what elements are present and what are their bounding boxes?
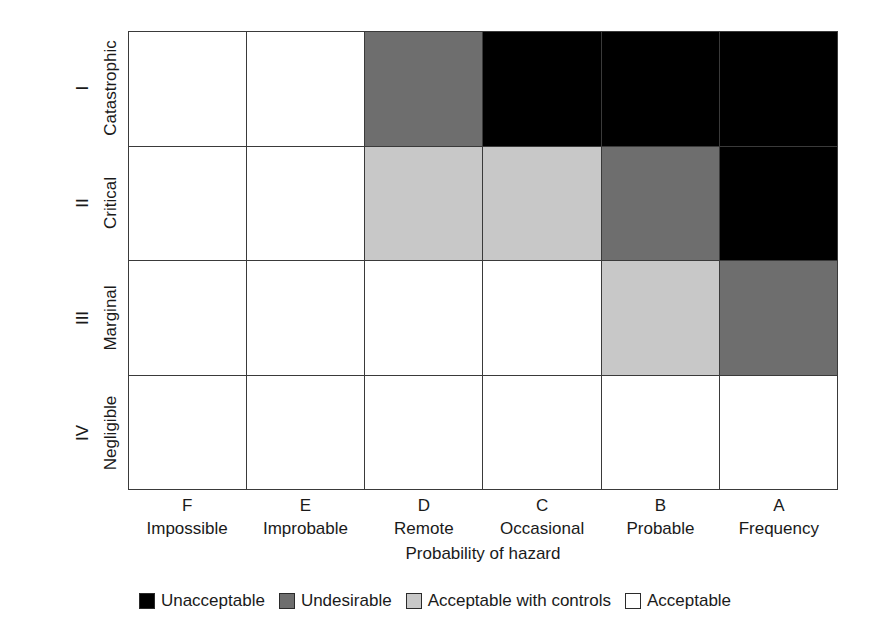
x-tick: FImpossible [128,495,246,543]
x-tick-letter: D [365,495,483,517]
matrix-cell [365,261,483,376]
y-tick-roman: I [73,31,93,146]
y-tick-roman: II [73,146,93,261]
matrix-cell [129,32,247,147]
x-tick: BProbable [601,495,719,543]
matrix-cell [720,376,838,491]
matrix-cell [365,147,483,262]
matrix-cell [247,261,365,376]
x-tick: COccasional [483,495,601,543]
matrix-cell [720,147,838,262]
y-tick-roman: III [73,260,93,375]
risk-matrix-figure: Severity of consequences ICatastrophicII… [0,0,884,630]
y-tick-label: Marginal [101,260,121,375]
legend-swatch-icon [279,593,295,609]
legend-label: Acceptable [647,591,731,611]
matrix-cell [365,376,483,491]
x-tick-label: Frequency [720,517,838,541]
x-tick-label: Impossible [128,517,246,541]
y-tick-roman: IV [73,375,93,490]
matrix-cell [720,261,838,376]
matrix-cell [247,147,365,262]
risk-matrix-grid [128,31,838,490]
legend-label: Undesirable [301,591,392,611]
matrix-cell [483,147,601,262]
y-tick-label: Critical [101,146,121,261]
x-tick: EImprobable [246,495,364,543]
x-tick-letter: E [246,495,364,517]
matrix-cell [602,32,720,147]
matrix-cell [129,376,247,491]
matrix-cell [129,147,247,262]
x-tick: DRemote [365,495,483,543]
x-axis-title: Probability of hazard [128,544,838,564]
matrix-cell [483,32,601,147]
matrix-cell [483,376,601,491]
matrix-cell [483,261,601,376]
matrix-cell [247,32,365,147]
x-tick-letter: B [601,495,719,517]
y-tick-label: Negligible [101,375,121,490]
x-tick-label: Probable [601,517,719,541]
matrix-cell [365,32,483,147]
matrix-cell [602,261,720,376]
legend-label: Acceptable with controls [428,591,611,611]
x-tick-label: Improbable [246,517,364,541]
matrix-cell [602,376,720,491]
matrix-cell [602,147,720,262]
legend-label: Unacceptable [161,591,265,611]
y-tick-label: Catastrophic [101,31,121,146]
x-tick-labels: FImpossibleEImprobableDRemoteCOccasional… [128,495,838,543]
x-tick-label: Occasional [483,517,601,541]
y-axis-title: Severity of consequences [0,0,30,91]
matrix-cell [720,32,838,147]
x-tick-letter: F [128,495,246,517]
legend-item: Acceptable [625,591,731,611]
x-tick-letter: C [483,495,601,517]
legend-swatch-icon [139,593,155,609]
matrix-cell [247,376,365,491]
legend-item: Unacceptable [139,591,265,611]
x-tick: AFrequency [720,495,838,543]
legend-item: Undesirable [279,591,392,611]
legend-swatch-icon [625,593,641,609]
legend-item: Acceptable with controls [406,591,611,611]
legend-swatch-icon [406,593,422,609]
x-tick-label: Remote [365,517,483,541]
matrix-cell [129,261,247,376]
x-tick-letter: A [720,495,838,517]
legend: UnacceptableUndesirableAcceptable with c… [0,588,884,614]
